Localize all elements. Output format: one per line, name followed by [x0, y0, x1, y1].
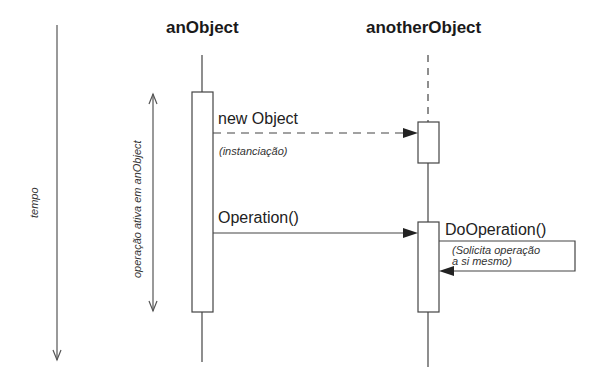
- operation-message-arrow: [213, 228, 418, 238]
- instantiation-note: (instanciação): [219, 146, 287, 157]
- active-operation-label: operação ativa em anObject: [131, 140, 143, 278]
- anotherObject-lifeline: [418, 55, 439, 367]
- time-axis-label: tempo: [28, 187, 40, 218]
- anotherObject-creation-bar: [418, 122, 439, 163]
- self-request-note-line2: a si mesmo): [452, 256, 512, 267]
- operation-message-label: Operation(): [218, 209, 299, 227]
- anObject-lifeline: [192, 55, 213, 362]
- anObject-activation-bar: [192, 92, 213, 312]
- do-operation-message-label: DoOperation(): [445, 221, 546, 239]
- anotherObject-title: anotherObject: [366, 18, 481, 38]
- new-object-message-label: new Object: [218, 110, 298, 128]
- sequence-diagram-canvas: [0, 0, 610, 390]
- time-axis-arrow: [53, 25, 61, 360]
- anotherObject-activation-bar: [418, 222, 439, 312]
- active-operation-span-arrow: [149, 94, 157, 311]
- anObject-title: anObject: [166, 18, 239, 38]
- new-object-message-arrow: [213, 128, 418, 138]
